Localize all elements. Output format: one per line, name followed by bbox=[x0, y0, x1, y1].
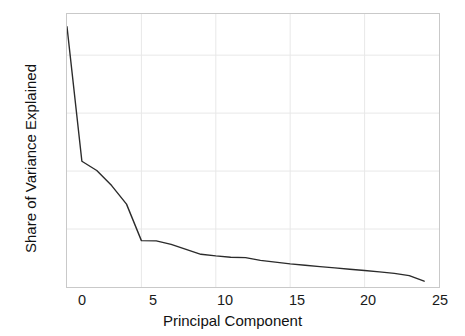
x-axis-title: Principal Component bbox=[0, 312, 465, 329]
x-tick-label-25: 25 bbox=[417, 292, 463, 308]
y-axis-title: Share of Variance Explained bbox=[22, 44, 39, 274]
x-tick-label-15: 15 bbox=[274, 292, 320, 308]
x-tick-label-10: 10 bbox=[202, 292, 248, 308]
x-tick-label-5: 5 bbox=[130, 292, 176, 308]
x-tick-label-0: 0 bbox=[59, 292, 105, 308]
scree-plot-figure: Share of Variance Explained 0.20 0.15 0.… bbox=[0, 0, 465, 336]
plot-area bbox=[66, 13, 440, 288]
x-tick-label-20: 20 bbox=[345, 292, 391, 308]
data-series-line bbox=[67, 14, 439, 287]
